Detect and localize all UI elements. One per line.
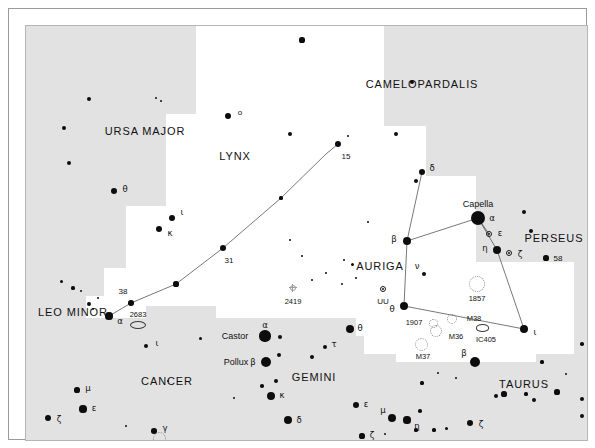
named-star-castor: Castor [222,331,249,341]
named-star-capella: Capella [463,199,494,209]
star-label: o [238,108,242,117]
star-point [493,246,501,254]
constellation-label: CANCER [141,375,193,387]
star-point [74,387,79,392]
star-label: θ [122,184,127,194]
star-point [580,414,584,418]
variable-star-label: ζ [518,249,523,259]
star-point [543,255,548,260]
star-point [173,281,178,286]
star-label: 15 [342,152,351,161]
star-label: α [117,316,123,326]
star-label: μ [380,405,385,415]
named-star-bayer: β [250,357,255,367]
star-point [471,211,485,225]
star-label: ε [92,403,97,413]
star-label: κ [279,390,284,400]
star-point [580,342,584,346]
star-label: ε [364,399,369,409]
open-cluster [153,432,166,442]
star-label: β [461,348,466,358]
star-label: ι [156,338,159,348]
star-point [524,392,527,395]
star-chart-root: oθικ153138αδβαηθινβ58κτθδεμηζζιμζεγUUεζ2… [0,0,595,448]
star-point [540,360,543,363]
star-label: δ [429,163,434,173]
star-point [67,161,71,165]
star-label: ι [534,327,537,337]
star-label: θ [357,323,362,333]
star-point [323,345,327,349]
constellation-label: PERSEUS [525,232,584,244]
star-label: δ [296,415,301,425]
constellation-line [407,218,478,241]
star-label: ζ [57,414,62,424]
star-label: 58 [554,254,563,263]
sky-plane: oθικ153138αδβαηθινβ58κτθδεμηζζιμζεγUUεζ2… [26,26,587,440]
star-point [418,409,422,413]
star-point [267,392,275,400]
star-label: η [482,243,487,253]
constellation-label: CAMELOPARDALIS [366,78,479,90]
open-cluster-label: M37 [416,352,431,361]
named-star-pollux: Pollux [224,357,249,367]
open-cluster [447,314,457,324]
open-cluster-label: M38 [467,314,482,323]
star-point [259,330,270,341]
nebula [476,324,489,331]
star-point [199,337,202,340]
star-label: γ [162,423,167,433]
star-point [260,384,264,388]
open-cluster-label: M36 [449,332,464,341]
named-star-bayer: α [262,320,268,330]
chart-outer-frame: oθικ153138αδβαηθινβ58κτθδεμηζζιμζεγUUεζ2… [8,8,587,440]
star-point [388,414,396,422]
constellation-label: URSA MAJOR [105,125,186,137]
star-label: κ [167,228,172,238]
star-label: θ [389,304,394,314]
star-label: ζ [370,430,375,440]
star-point [274,379,278,383]
variable-star-label: UU [377,297,389,306]
star-point [432,428,435,431]
star-point [71,286,74,289]
variable-star-label: ε [498,228,503,238]
globular-cluster-label: 2419 [285,297,302,306]
star-label: μ [85,383,90,393]
star-point [277,353,281,357]
star-point [403,416,410,423]
constellation-line [404,241,407,306]
star-point [445,427,448,430]
star-point [299,37,304,42]
open-cluster [415,338,428,351]
star-label: τ [331,339,336,349]
constellation-label: GEMINI [292,371,337,383]
star-point [351,263,354,266]
star-label: ν [415,261,420,271]
star-point [45,415,51,421]
star-point [414,428,417,431]
star-label: ζ [479,419,484,429]
constellation-line [497,250,524,329]
constellation-label: LEO MINOR [38,306,108,318]
star-point [261,357,271,367]
constellation-line [109,144,338,316]
open-cluster-label: 1907 [406,318,423,327]
star-point [420,381,423,384]
star-label: 31 [225,256,234,265]
star-point [554,389,559,394]
star-point [400,302,408,310]
star-label: β [391,234,396,244]
star-point [284,416,292,424]
star-point [79,405,86,412]
star-point [169,215,175,221]
star-point [177,440,180,441]
constellation-label: TAURUS [499,378,549,390]
open-cluster [429,319,438,328]
star-point [279,196,282,199]
star-point [522,210,526,214]
open-cluster-label: 1857 [469,294,486,303]
star-label: ι [181,207,184,217]
open-cluster [469,276,485,292]
star-point [501,391,506,396]
